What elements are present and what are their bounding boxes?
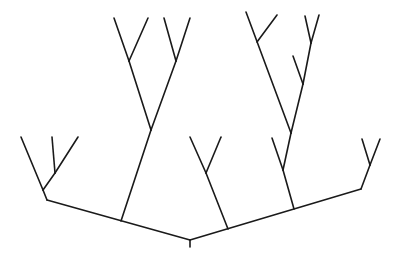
tree-branch bbox=[283, 170, 294, 209]
tree-branch bbox=[370, 139, 380, 165]
tree-branch bbox=[176, 18, 190, 61]
tree-branch bbox=[361, 165, 370, 189]
tree-branch bbox=[55, 137, 78, 173]
tree-branch bbox=[257, 15, 277, 42]
tree-branch bbox=[151, 61, 176, 130]
tree-branch bbox=[362, 139, 370, 165]
tree-branch bbox=[293, 56, 303, 84]
tree-branch bbox=[206, 173, 228, 229]
tree-branch bbox=[121, 130, 151, 221]
tree-branch bbox=[190, 137, 206, 173]
tree-branch bbox=[305, 16, 311, 43]
tree-branch bbox=[21, 137, 43, 190]
tree-diagram bbox=[0, 0, 399, 260]
tree-branch bbox=[43, 173, 55, 190]
tree-branch bbox=[47, 200, 190, 240]
tree-branch bbox=[52, 137, 55, 173]
tree-branch bbox=[272, 138, 283, 170]
tree-branch bbox=[43, 190, 47, 200]
tree-branch bbox=[129, 18, 148, 61]
tree-branch bbox=[311, 15, 319, 43]
tree-branch bbox=[303, 43, 311, 84]
tree-branch bbox=[114, 18, 129, 61]
tree-branch bbox=[129, 61, 151, 130]
tree-branch bbox=[291, 84, 303, 133]
tree-branch bbox=[246, 12, 291, 133]
tree-branch bbox=[206, 137, 221, 173]
tree-branch bbox=[164, 18, 176, 61]
tree-branch bbox=[283, 133, 291, 170]
